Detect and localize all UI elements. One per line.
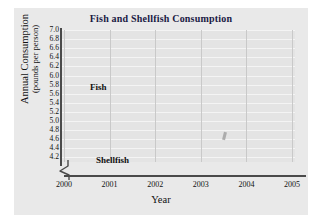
y-tick-label: 4.6 — [35, 135, 59, 143]
x-axis-line — [64, 175, 306, 177]
series-label-shellfish: Shellfish — [96, 155, 129, 165]
gridline-horizontal — [61, 112, 295, 113]
gridline-horizontal — [61, 148, 295, 149]
x-tick-label: 2005 — [275, 180, 309, 189]
gridline-horizontal — [61, 103, 295, 104]
gridline-horizontal — [61, 139, 295, 140]
gridline-horizontal — [61, 39, 295, 40]
plot-background — [61, 30, 295, 162]
y-tick-label: 6.6 — [35, 44, 59, 52]
y-tick-label: 6.8 — [35, 35, 59, 43]
gridline-horizontal — [61, 130, 295, 131]
x-tick-label: 2004 — [229, 180, 263, 189]
gridline-vertical — [201, 30, 202, 162]
y-axis-line — [60, 28, 62, 166]
gridline-horizontal — [61, 48, 295, 49]
gridline-vertical — [64, 30, 65, 162]
y-tick-label: 4.4 — [35, 144, 59, 152]
gridline-horizontal — [61, 57, 295, 58]
y-tick-label: 5.6 — [35, 90, 59, 98]
x-tick-label: 2003 — [184, 180, 218, 189]
gridline-vertical — [110, 30, 111, 162]
gridline-horizontal — [61, 66, 295, 67]
gridline-horizontal — [61, 121, 295, 122]
x-axis-title: Year — [14, 194, 308, 205]
chart-title: Fish and Shellfish Consumption — [14, 13, 308, 24]
x-tick-label: 2000 — [47, 180, 81, 189]
y-tick-label: 5.0 — [35, 117, 59, 125]
y-tick-label: 7.0 — [35, 26, 59, 34]
gridline-horizontal — [61, 76, 295, 77]
y-tick-label: 4.8 — [35, 126, 59, 134]
y-tick-label: 6.0 — [35, 72, 59, 80]
gridline-vertical — [292, 30, 293, 162]
gridline-vertical — [246, 30, 247, 162]
x-tick-label: 2002 — [138, 180, 172, 189]
chart-figure: Fish and Shellfish Consumption Annual Co… — [14, 8, 308, 215]
y-tick-label: 5.2 — [35, 108, 59, 116]
series-label-fish: Fish — [90, 82, 107, 92]
gridline-vertical — [155, 30, 156, 162]
y-tick-label: 5.8 — [35, 81, 59, 89]
y-tick-label: 6.4 — [35, 53, 59, 61]
y-axis-tick-labels: 7.06.86.66.46.26.05.85.65.45.25.04.84.64… — [33, 30, 59, 162]
gridline-horizontal — [61, 94, 295, 95]
x-tick-label: 2001 — [93, 180, 127, 189]
y-tick-label: 6.2 — [35, 62, 59, 70]
plot-area — [61, 30, 295, 162]
axis-break-icon — [56, 160, 74, 180]
gridline-horizontal — [61, 30, 295, 31]
y-tick-label: 5.4 — [35, 99, 59, 107]
